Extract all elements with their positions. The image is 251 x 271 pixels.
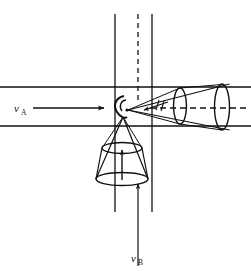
beam-collision-diagram: ν A ν B: [0, 0, 251, 271]
figure-root: ν A ν B: [0, 0, 251, 271]
axis-dashed-lines: [138, 14, 249, 108]
beam-b-band: [115, 14, 152, 212]
right-cone-inner-tick-2: [161, 101, 164, 111]
right-cone-cross-section-1: [174, 88, 187, 124]
right-cone-mid-lower-edge: [128, 110, 180, 124]
label-beam-b: ν B: [131, 252, 143, 267]
label-beam-a: ν A: [14, 102, 27, 117]
right-cone-cross-section-2: [215, 84, 230, 130]
beam-b-symbol: ν: [131, 252, 136, 264]
lower-emission-cone: [96, 117, 148, 186]
right-emission-cone: [128, 84, 230, 130]
vertex-point: [125, 108, 128, 111]
lower-cone-rim-left: [96, 148, 102, 179]
lower-cone-rim-right: [142, 148, 148, 179]
vertex-hook-arc-inner: [120, 100, 126, 111]
beam-b-subscript: B: [138, 258, 143, 267]
interaction-vertex: [115, 96, 129, 118]
beam-a-symbol: ν: [14, 102, 19, 114]
beam-a-subscript: A: [21, 108, 27, 117]
